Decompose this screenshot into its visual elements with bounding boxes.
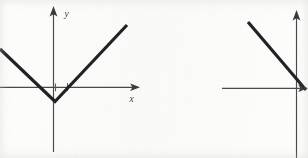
descending-line	[248, 22, 306, 90]
absolute-value-curve	[0, 25, 127, 102]
left-y-axis-label: y	[64, 9, 70, 19]
left-v-curve-group	[0, 25, 127, 102]
figure-container: y x	[0, 0, 308, 158]
left-y-axis	[50, 6, 58, 152]
right-panel	[222, 10, 308, 158]
right-line-group	[248, 22, 306, 90]
left-x-axis-label: x	[129, 94, 135, 104]
right-x-axis	[222, 85, 308, 92]
left-panel	[0, 6, 140, 152]
graph-figure: y x	[0, 0, 308, 158]
